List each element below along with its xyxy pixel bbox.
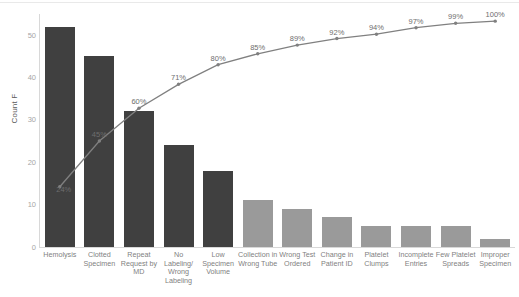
- cumulative-percent-label: 71%: [171, 73, 186, 82]
- y-axis-tick-label: 30: [14, 115, 36, 124]
- cumulative-percent-label: 89%: [290, 34, 305, 43]
- line-marker: [137, 107, 140, 110]
- y-axis-tick-label: 10: [14, 200, 36, 209]
- x-axis-category-label: Incomplete Entries: [396, 251, 436, 268]
- line-marker: [335, 37, 338, 40]
- pareto-chart: Count F 01020304050 24%45%60%71%80%85%89…: [0, 0, 519, 297]
- line-marker: [375, 33, 378, 36]
- x-axis-category-label: Collection in Wrong Tube: [238, 251, 278, 268]
- x-axis-category-label: Change in Patient ID: [317, 251, 357, 268]
- y-axis-tick-label: 50: [14, 31, 36, 40]
- cumulative-percent-label: 92%: [329, 28, 344, 37]
- y-axis-tick-label: 20: [14, 158, 36, 167]
- x-axis-category-label: Clotted Specimen: [80, 251, 120, 268]
- x-axis-category-label: Platelet Clumps: [357, 251, 397, 268]
- x-axis-category-label: Low Specimen Volume: [198, 251, 238, 277]
- line-marker: [296, 43, 299, 46]
- x-axis-category-label: Few Platelet Spreads: [436, 251, 476, 268]
- x-axis-category-label: Hemolysis: [40, 251, 80, 260]
- cumulative-percent-label: 24%: [56, 185, 71, 194]
- y-axis-tick-label: 40: [14, 73, 36, 82]
- line-marker: [256, 52, 259, 55]
- line-marker: [98, 139, 101, 142]
- x-axis-line: [39, 247, 515, 248]
- y-axis-title: Count F: [10, 79, 19, 139]
- x-axis-category-label: No Labeling/ Wrong Labeling: [159, 251, 199, 285]
- y-axis-tick-label: 0: [14, 243, 36, 252]
- line-marker: [494, 19, 497, 22]
- cumulative-percent-label: 45%: [92, 130, 107, 139]
- cumulative-percent-label: 97%: [409, 17, 424, 26]
- cumulative-percent-label: 80%: [211, 54, 226, 63]
- line-marker: [216, 63, 219, 66]
- cumulative-line: [60, 21, 495, 187]
- cumulative-percent-label: 100%: [486, 10, 505, 19]
- line-marker: [454, 22, 457, 25]
- x-axis-category-label: Wrong Test Ordered: [278, 251, 318, 268]
- line-marker: [177, 83, 180, 86]
- cumulative-percent-label: 99%: [448, 12, 463, 21]
- cumulative-percent-label: 60%: [131, 97, 146, 106]
- top-divider: [0, 2, 519, 3]
- x-axis-category-label: Repeat Request by MD: [119, 251, 159, 277]
- cumulative-line-layer: [40, 14, 515, 247]
- cumulative-percent-label: 85%: [250, 43, 265, 52]
- x-axis-category-label: Improper Specimen: [475, 251, 515, 268]
- cumulative-percent-label: 94%: [369, 23, 384, 32]
- line-marker: [414, 26, 417, 29]
